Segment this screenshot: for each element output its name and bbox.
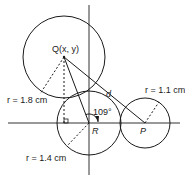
geometry-diagram: Q(x, y) d 109° R P r = 1.8 cm r = 1.4 cm… [0,0,185,179]
radius-p-dashed [145,102,159,123]
label-r: R [92,126,99,136]
label-angle: 109° [93,107,112,117]
radius-r-dashed [67,123,89,146]
label-radius-r: r = 1.4 cm [26,153,66,163]
label-radius-q: r = 1.8 cm [7,95,47,105]
label-radius-p: r = 1.1 cm [145,85,185,95]
label-q: Q(x, y) [52,44,79,54]
point-q [63,56,65,58]
radius-q-dashed [40,57,64,94]
right-angle-marker [64,119,68,123]
label-p: P [140,126,146,136]
label-d: d [106,89,112,99]
